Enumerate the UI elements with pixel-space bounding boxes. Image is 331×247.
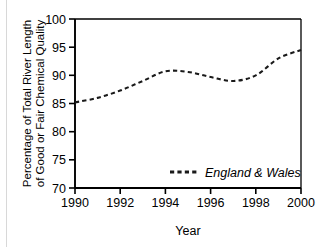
y-axis-title-line2: of Good or Fair Chemical Quality: [34, 20, 46, 188]
x-tick-label: 1992: [106, 196, 134, 210]
x-tick-label: 1998: [242, 196, 270, 210]
y-axis-tick-labels: 100 95 90 85 80 75 70: [45, 13, 66, 196]
x-tick-label: 1994: [151, 196, 179, 210]
y-axis-title-line1: Percentage of Total River Length: [21, 20, 33, 187]
x-axis-title: Year: [175, 224, 200, 238]
legend-label-england-wales: England & Wales: [205, 166, 301, 180]
y-tick-label: 95: [52, 41, 66, 55]
y-tick-label: 90: [52, 69, 66, 83]
y-tick-label: 85: [52, 97, 66, 111]
y-axis-title: Percentage of Total River Length of Good…: [21, 20, 46, 188]
chart-legend: England & Wales: [170, 166, 301, 180]
x-axis-tick-labels: 1990 1992 1994 1996 1998 2000: [61, 196, 315, 210]
series-line-england-wales: [75, 50, 301, 102]
y-tick-label: 100: [45, 13, 66, 27]
x-tick-label: 1990: [61, 196, 89, 210]
line-chart: 100 95 90 85 80 75 70 1990 1992 1994 199…: [0, 0, 331, 247]
y-tick-label: 80: [52, 125, 66, 139]
chart-figure: 100 95 90 85 80 75 70 1990 1992 1994 199…: [0, 0, 331, 247]
page-edge-rule: [6, 0, 7, 247]
x-tick-label: 2000: [287, 196, 315, 210]
plot-frame: [75, 19, 301, 188]
x-tick-label: 1996: [197, 196, 225, 210]
y-tick-label: 70: [52, 182, 66, 196]
y-tick-label: 75: [52, 153, 66, 167]
